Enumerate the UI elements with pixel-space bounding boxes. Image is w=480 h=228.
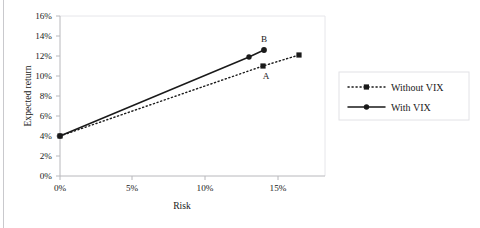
x-axis-title: Risk bbox=[173, 200, 191, 211]
point-label-b: B bbox=[261, 34, 267, 44]
expected-return-vs-risk-chart: 0% 2% 4% 6% 8% 10% 12% 14% 16% 0% 5% 10%… bbox=[0, 0, 480, 228]
with-vix-marker-origin bbox=[57, 133, 62, 138]
with-vix-line bbox=[60, 50, 264, 136]
with-vix-marker-mid bbox=[246, 54, 251, 59]
series-without-vix bbox=[57, 52, 301, 138]
y-tick-label: 6% bbox=[40, 111, 53, 121]
chart-legend: Without VIX With VIX bbox=[339, 72, 469, 120]
chart-figure: 0% 2% 4% 6% 8% 10% 12% 14% 16% 0% 5% 10%… bbox=[0, 0, 480, 228]
legend-swatch-square-marker bbox=[364, 84, 369, 89]
legend-label-without-vix: Without VIX bbox=[391, 82, 444, 93]
y-tick-label: 10% bbox=[35, 71, 52, 81]
legend-swatch-circle-marker bbox=[364, 104, 369, 109]
y-tick-label: 14% bbox=[35, 31, 52, 41]
with-vix-marker-b bbox=[261, 47, 267, 53]
x-tick-labels: 0% 5% 10% 15% bbox=[54, 183, 287, 193]
y-tick-label: 8% bbox=[40, 91, 53, 101]
y-axis-title: Expected return bbox=[22, 65, 33, 126]
x-tick-label: 15% bbox=[270, 183, 287, 193]
point-label-a: A bbox=[263, 71, 270, 81]
plot-frame bbox=[60, 16, 325, 176]
y-tick-labels: 0% 2% 4% 6% 8% 10% 12% 14% 16% bbox=[35, 11, 52, 181]
series-with-vix bbox=[57, 47, 267, 139]
x-tick-marks bbox=[60, 176, 278, 180]
without-vix-marker-a bbox=[260, 63, 265, 68]
x-tick-label: 10% bbox=[197, 183, 214, 193]
y-tick-label: 12% bbox=[35, 51, 52, 61]
legend-label-with-vix: With VIX bbox=[391, 102, 431, 113]
y-tick-label: 16% bbox=[35, 11, 52, 21]
y-tick-label: 4% bbox=[40, 131, 53, 141]
x-tick-label: 5% bbox=[126, 183, 139, 193]
y-tick-label: 0% bbox=[40, 171, 53, 181]
x-tick-label: 0% bbox=[54, 183, 67, 193]
y-tick-label: 2% bbox=[40, 151, 53, 161]
left-edge-rule bbox=[3, 0, 4, 228]
without-vix-marker-end bbox=[296, 52, 301, 57]
y-tick-marks bbox=[56, 16, 60, 176]
